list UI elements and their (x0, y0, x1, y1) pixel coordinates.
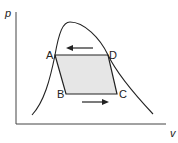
bottom-arrow (82, 99, 109, 105)
pv-diagram: p v A B C D (0, 0, 178, 143)
arrow-right-icon (102, 99, 109, 105)
point-label-c: C (119, 88, 127, 100)
y-axis-label: p (4, 7, 11, 19)
arrow-left-icon (66, 45, 73, 51)
point-label-b: B (57, 88, 64, 100)
top-arrow (66, 45, 93, 51)
point-label-d: D (109, 49, 117, 61)
point-label-a: A (46, 49, 54, 61)
x-axis-label: v (170, 127, 177, 139)
